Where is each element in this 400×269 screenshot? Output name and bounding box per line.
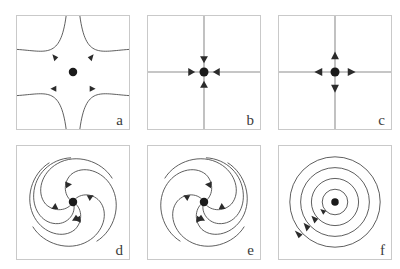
panel-a-saddle: a <box>16 15 130 130</box>
spiral-arm-e-5 <box>203 158 243 224</box>
arrowhead-bottom-out <box>331 85 339 93</box>
panel-a-canvas <box>17 16 129 129</box>
arrowhead-d-4 <box>65 181 72 188</box>
saddle-curve-top-right <box>80 16 129 51</box>
panel-c-unstable-node: c <box>278 15 392 130</box>
panel-b-canvas <box>148 16 260 129</box>
arrowhead-right-out <box>348 68 356 76</box>
arrowhead-bottom-in <box>200 81 208 88</box>
panel-label-c: c <box>378 113 385 128</box>
panel-e-canvas <box>148 146 260 259</box>
panel-e-stable-spiral: e <box>147 145 261 260</box>
panel-label-a: a <box>116 113 123 128</box>
arrowhead-e-3 <box>219 203 226 209</box>
equilibrium-dot-e <box>200 198 208 206</box>
panel-label-f: f <box>380 243 385 258</box>
panel-f-center: f <box>278 145 392 260</box>
panel-c-canvas <box>279 16 391 129</box>
panel-b-stable-node: b <box>147 15 261 130</box>
panel-d-canvas <box>17 146 129 259</box>
spiral-arm-d-5 <box>34 158 74 224</box>
arrowhead-d-1 <box>87 195 94 201</box>
phase-portrait-figure: a b <box>0 0 400 269</box>
equilibrium-dot-f <box>331 198 338 205</box>
arrowhead-bottom-right <box>90 86 96 92</box>
arrowhead-bottom-left <box>50 86 56 92</box>
saddle-curve-top-left <box>17 16 66 51</box>
panel-label-e: e <box>247 243 254 258</box>
arrowhead-left-out <box>314 68 322 76</box>
arrowhead-top-in <box>200 56 208 63</box>
equilibrium-dot-d <box>69 198 77 206</box>
arrowhead-left-in <box>188 68 195 76</box>
spiral-arm-e-1 <box>173 195 245 246</box>
equilibrium-dot-c <box>330 67 339 76</box>
arrowhead-e-1 <box>183 195 190 201</box>
panel-d-stable-spiral: d <box>16 145 130 260</box>
panel-f-canvas <box>279 146 391 259</box>
arrowhead-f-3 <box>304 223 311 232</box>
equilibrium-dot-b <box>199 67 208 76</box>
arrowhead-top-out <box>331 51 339 59</box>
arrowhead-d-3 <box>51 203 58 209</box>
arrowhead-top-right <box>88 54 94 61</box>
spiral-arm-d-1 <box>33 195 105 246</box>
panel-label-b: b <box>247 113 255 128</box>
arrowhead-top-left <box>52 54 58 61</box>
arrowhead-right-in <box>213 68 220 76</box>
arrowhead-e-4 <box>205 181 212 188</box>
panel-label-d: d <box>116 243 124 258</box>
equilibrium-dot-a <box>69 68 77 76</box>
saddle-curve-bottom-left <box>17 94 66 129</box>
